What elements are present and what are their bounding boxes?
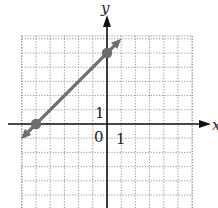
data-point (102, 48, 112, 58)
origin-label: 0 (94, 128, 104, 146)
x-axis-label: x (212, 116, 218, 134)
x-tick-label: 1 (116, 130, 126, 148)
y-axis-label: y (100, 0, 110, 17)
data-point (31, 119, 41, 129)
x-axis-arrow-icon (199, 120, 211, 128)
coordinate-plane: y x 1 0 1 (0, 0, 218, 208)
y-tick-label: 1 (95, 104, 105, 122)
